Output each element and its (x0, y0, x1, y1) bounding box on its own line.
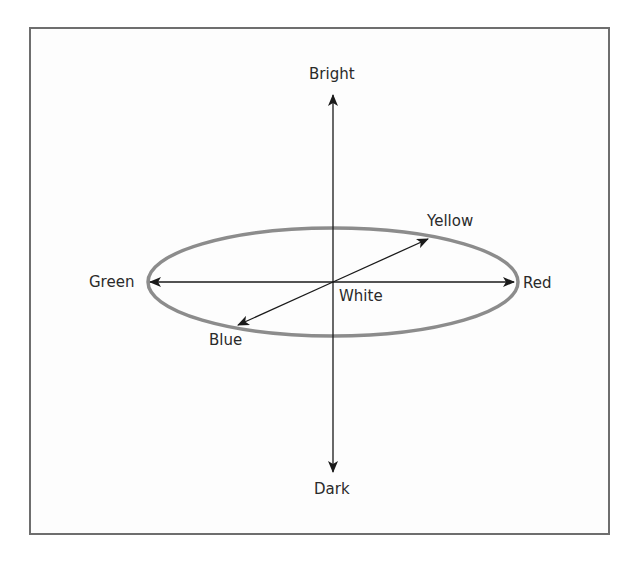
yellow-arrow (333, 239, 428, 282)
label-blue: Blue (209, 333, 242, 348)
label-red: Red (523, 276, 552, 291)
label-dark: Dark (314, 482, 350, 497)
blue-arrow (238, 282, 333, 325)
label-white: White (339, 289, 383, 304)
label-yellow: Yellow (427, 214, 473, 229)
label-bright: Bright (309, 67, 355, 82)
label-green: Green (89, 275, 134, 290)
